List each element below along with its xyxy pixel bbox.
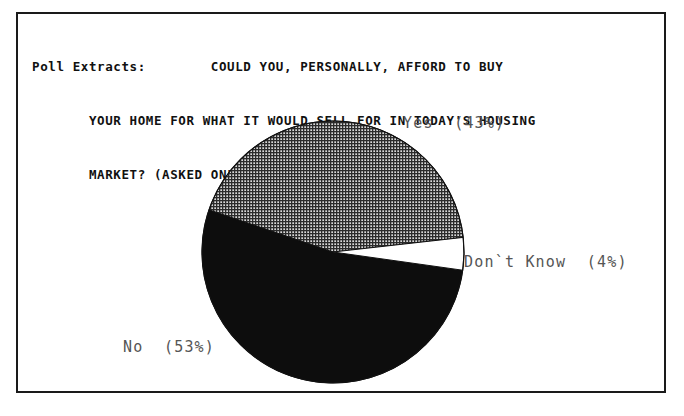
pie-chart-svg	[168, 98, 508, 398]
pie-chart: Yes (43%) Don`t Know (4%) No (53%)	[18, 14, 664, 391]
chart-frame: Poll Extracts: COULD YOU, PERSONALLY, AF…	[16, 12, 666, 393]
pie-label-yes: Yes (43%)	[403, 114, 505, 132]
pie-label-dont-know: Don`t Know (4%)	[464, 253, 628, 271]
pie-label-no: No (53%)	[123, 338, 215, 356]
